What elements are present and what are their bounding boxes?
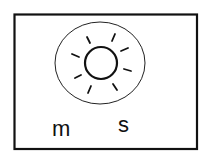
diagram-drawing xyxy=(0,0,210,156)
label-s: s xyxy=(118,114,129,136)
frame-border xyxy=(15,15,198,150)
label-m: m xyxy=(52,118,70,140)
diagram-canvas: m s xyxy=(0,0,210,156)
sun-ray xyxy=(88,86,91,93)
sun-ray xyxy=(87,37,90,43)
sun-ray xyxy=(112,34,115,41)
outer-circle xyxy=(55,22,145,104)
sun-icon xyxy=(72,34,131,93)
sun-core xyxy=(85,47,117,79)
sun-ray xyxy=(72,54,79,57)
sun-ray xyxy=(113,84,117,90)
sun-ray xyxy=(121,48,128,51)
sun-ray xyxy=(75,75,81,78)
sun-ray xyxy=(124,69,131,71)
